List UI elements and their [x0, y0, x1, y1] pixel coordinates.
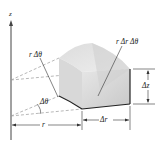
angle-label: Δθ — [39, 97, 48, 106]
radial-width-label: Δr — [99, 115, 107, 124]
leader-arc-length — [40, 58, 58, 97]
arrow-up-icon — [9, 20, 13, 26]
z-axis: z — [8, 10, 13, 140]
volume-element — [59, 43, 130, 109]
volume-element-diagram: z r Δθ r Δr Δθ Δθ Δz — [0, 0, 163, 148]
z-axis-label: z — [8, 10, 12, 18]
radius-label: r — [42, 120, 45, 129]
arc-length-label: r Δθ — [29, 50, 42, 59]
top-area-label: r Δr Δθ — [116, 37, 138, 46]
height-label: Δz — [141, 81, 149, 90]
radial-dimension: r Δr — [12, 106, 130, 130]
height-dimension: Δz — [133, 69, 155, 104]
